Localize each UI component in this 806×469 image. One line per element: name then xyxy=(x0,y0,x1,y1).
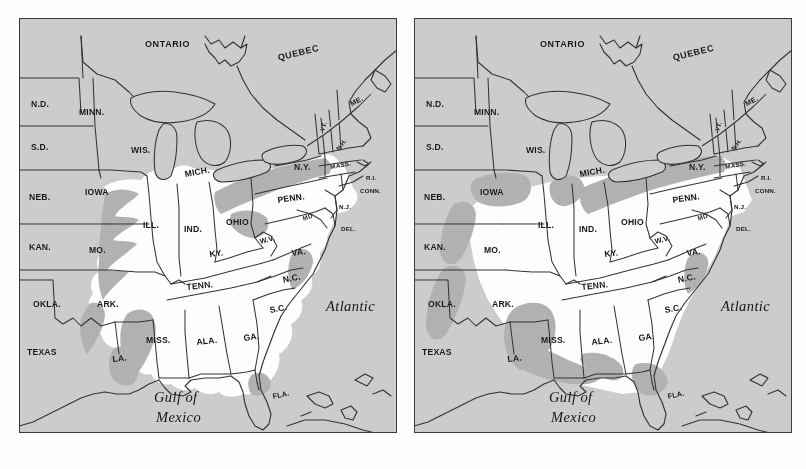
state-label-va: VA. xyxy=(291,247,306,257)
state-label-conn: CONN. xyxy=(755,188,776,194)
state-label-ga: GA. xyxy=(638,332,655,343)
province-label-ontario: ONTARIO xyxy=(145,40,190,49)
state-label-del: DEL. xyxy=(736,226,751,232)
state-label-n-d: N.D. xyxy=(31,100,49,109)
state-label-texas: TEXAS xyxy=(422,348,452,357)
province-label-ontario: ONTARIO xyxy=(540,40,585,49)
ocean-label-atlantic: Atlantic xyxy=(721,299,770,314)
state-label-conn: CONN. xyxy=(360,188,381,194)
state-label-n-y: N.Y. xyxy=(689,163,706,172)
state-label-ala: ALA. xyxy=(196,336,218,347)
state-label-texas: TEXAS xyxy=(27,348,57,357)
state-label-ind: IND. xyxy=(184,225,202,234)
state-label-wis: WIS. xyxy=(526,146,545,155)
left-map-panel: ONTARIOQUEBECN.D.MINN.S.D.WIS.MICH.ME.VT… xyxy=(19,18,397,433)
figure-root: ONTARIOQUEBECN.D.MINN.S.D.WIS.MICH.ME.VT… xyxy=(0,0,806,469)
state-label-wis: WIS. xyxy=(131,146,150,155)
state-label-del: DEL. xyxy=(341,226,356,232)
right-map-panel: ONTARIOQUEBECN.D.MINN.S.D.WIS.MICH.ME.VT… xyxy=(414,18,792,433)
state-label-r-i: R.I. xyxy=(761,175,771,181)
state-label-miss: MISS. xyxy=(146,336,170,345)
state-label-ark: ARK. xyxy=(492,300,514,309)
state-label-ga: GA. xyxy=(243,332,260,343)
state-label-ohio: OHIO xyxy=(621,218,644,227)
state-label-mo: MO. xyxy=(89,246,106,255)
state-label-la: LA. xyxy=(507,353,522,363)
state-label-kan: KAN. xyxy=(424,243,446,252)
state-label-n-j: N.J. xyxy=(734,204,746,210)
state-label-okla: OKLA. xyxy=(33,300,61,309)
ocean-label-atlantic: Atlantic xyxy=(326,299,375,314)
state-label-n-y: N.Y. xyxy=(294,163,311,172)
state-label-ky: KY. xyxy=(209,249,224,259)
state-label-s-d: S.D. xyxy=(31,143,49,152)
state-label-mo: MO. xyxy=(484,246,501,255)
state-label-minn: MINN. xyxy=(474,108,499,117)
state-label-kan: KAN. xyxy=(29,243,51,252)
state-label-va: VA. xyxy=(686,247,701,257)
ocean-label-mexico: Mexico xyxy=(551,410,596,425)
state-label-neb: NEB. xyxy=(29,193,50,202)
state-label-neb: NEB. xyxy=(424,193,445,202)
state-label-la: LA. xyxy=(112,353,127,363)
state-label-ark: ARK. xyxy=(97,300,119,309)
state-label-s-d: S.D. xyxy=(426,143,444,152)
state-label-r-i: R.I. xyxy=(366,175,376,181)
state-label-iowa: IOWA xyxy=(85,188,109,197)
ocean-label-mexico: Mexico xyxy=(156,410,201,425)
state-label-ill: ILL. xyxy=(538,221,554,230)
ocean-label-gulf-of: Gulf of xyxy=(154,390,197,405)
state-label-ind: IND. xyxy=(579,225,597,234)
state-label-iowa: IOWA xyxy=(480,188,504,197)
state-label-n-d: N.D. xyxy=(426,100,444,109)
state-label-okla: OKLA. xyxy=(428,300,456,309)
state-label-minn: MINN. xyxy=(79,108,104,117)
state-label-n-j: N.J. xyxy=(339,204,351,210)
ocean-label-gulf-of: Gulf of xyxy=(549,390,592,405)
state-label-miss: MISS. xyxy=(541,336,565,345)
state-label-ill: ILL. xyxy=(143,221,159,230)
state-label-ala: ALA. xyxy=(591,336,613,347)
state-label-ky: KY. xyxy=(604,249,619,259)
state-label-ohio: OHIO xyxy=(226,218,249,227)
